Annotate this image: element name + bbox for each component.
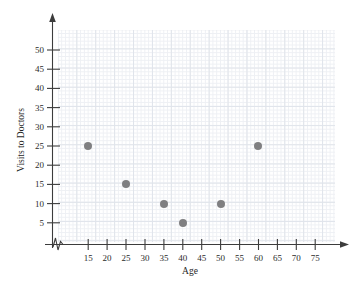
data-point	[217, 200, 225, 208]
y-tick-label: 40	[28, 84, 44, 93]
y-tick-label: 45	[28, 65, 44, 74]
x-axis-arrowhead	[340, 241, 349, 248]
x-tick-label: 25	[122, 254, 131, 263]
y-tick-label: 35	[28, 103, 44, 112]
x-axis-title: Age	[182, 267, 198, 277]
y-tick-label: 10	[28, 199, 44, 208]
data-point	[179, 219, 187, 227]
x-tick-label: 45	[197, 254, 206, 263]
data-point	[160, 200, 168, 208]
x-tick-label: 55	[235, 254, 244, 263]
axis-lines	[0, 0, 359, 290]
x-tick-label: 60	[254, 254, 263, 263]
y-tick-label: 25	[28, 142, 44, 151]
x-tick-label: 50	[216, 254, 225, 263]
y-tick-label: 5	[28, 218, 44, 227]
x-tick-label: 15	[84, 254, 93, 263]
y-tick-label: 20	[28, 161, 44, 170]
y-tick-label: 30	[28, 122, 44, 131]
scatter-plot-figure: 15 20 25 30 35 40 45 50 55 60 65 70 75 5…	[0, 0, 359, 290]
y-tick-label: 50	[28, 46, 44, 55]
x-tick-label: 65	[273, 254, 282, 263]
x-tick-label: 30	[141, 254, 150, 263]
y-tick-label: 15	[28, 180, 44, 189]
x-tick-label: 70	[292, 254, 301, 263]
y-axis-arrowhead	[49, 13, 56, 22]
x-tick-label: 35	[159, 254, 168, 263]
y-axis-title: Visits to Doctors	[17, 108, 27, 172]
x-tick-label: 20	[103, 254, 112, 263]
x-tick-label: 75	[311, 254, 320, 263]
y-axis-ticks	[47, 50, 60, 223]
x-tick-label: 40	[178, 254, 187, 263]
